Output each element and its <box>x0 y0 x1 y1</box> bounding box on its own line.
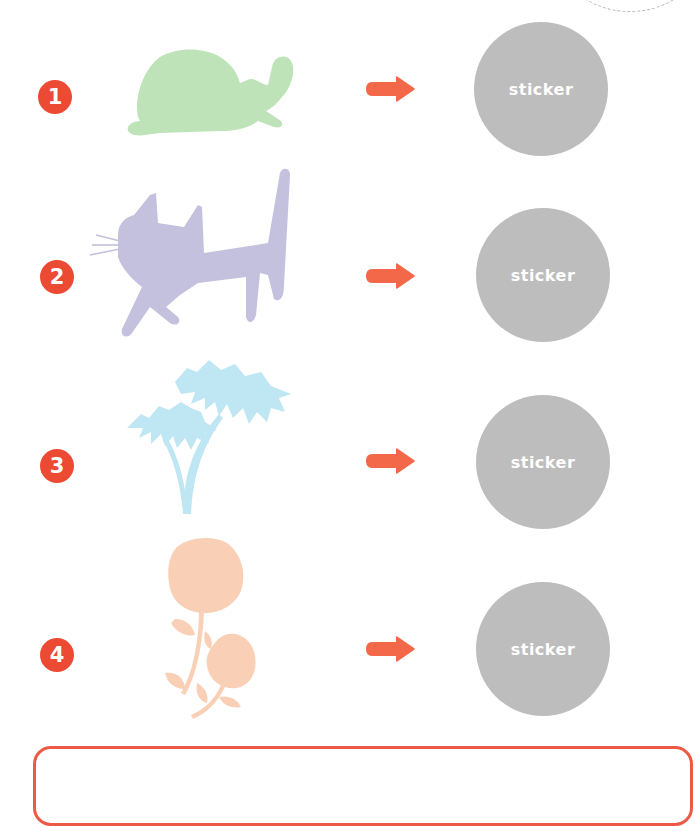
arrow-right-icon <box>366 636 416 662</box>
answer-box <box>33 746 693 826</box>
number-badge-4: 4 <box>40 638 74 672</box>
sticker-placeholder-4[interactable]: sticker <box>476 582 610 716</box>
turtle-silhouette-icon <box>120 45 300 145</box>
arrow-right-icon <box>366 76 416 102</box>
number-badge-3: 3 <box>40 449 74 483</box>
cat-silhouette-icon <box>88 165 303 345</box>
arrow-right-icon <box>366 263 416 289</box>
number-badge-2: 2 <box>40 260 74 294</box>
number-badge-1: 1 <box>38 80 72 114</box>
sticker-placeholder-2[interactable]: sticker <box>476 208 610 342</box>
rose-silhouette-icon <box>155 535 265 720</box>
arrow-right-icon <box>366 448 416 474</box>
sticker-placeholder-3[interactable]: sticker <box>476 395 610 529</box>
dashed-circle-decoration <box>565 0 695 12</box>
palm-tree-silhouette-icon <box>125 358 305 518</box>
sticker-placeholder-1[interactable]: sticker <box>474 22 608 156</box>
